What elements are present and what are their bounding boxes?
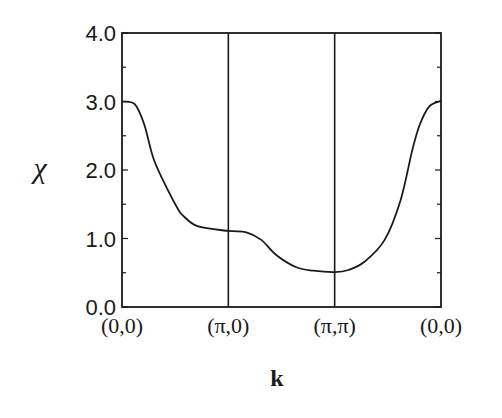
chi-curve [122,101,441,272]
y-tick-label: 4.0 [85,21,116,46]
chart: 0.01.02.03.04.0 (0,0)(π,0)(π,π)(0,0) χ k [0,0,502,418]
y-axis-label: χ [30,151,47,184]
y-tick-label: 3.0 [85,90,116,115]
y-tick-label: 1.0 [85,227,116,252]
x-tick-label: (π,π) [313,313,355,338]
x-tick-label: (0,0) [420,313,462,338]
x-tick-labels: (0,0)(π,0)(π,π)(0,0) [101,313,462,338]
y-tick-labels: 0.01.02.03.04.0 [85,21,116,320]
x-tick-label: (π,0) [207,313,249,338]
vertical-lines [228,33,334,307]
chart-svg: 0.01.02.03.04.0 (0,0)(π,0)(π,π)(0,0) χ k [0,0,502,418]
axis-ticks [122,33,441,307]
y-tick-label: 2.0 [85,158,116,183]
x-axis-label: k [270,365,284,391]
data-series [122,101,441,272]
plot-frame [122,33,441,307]
x-tick-label: (0,0) [101,313,143,338]
plot-border [122,33,441,307]
